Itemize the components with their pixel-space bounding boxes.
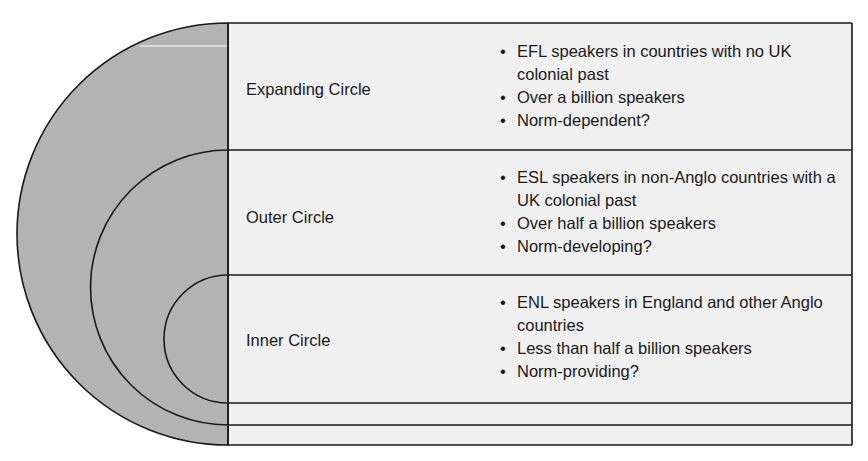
bullet-item: Norm-dependent? <box>498 109 848 132</box>
bullet-item: Less than half a billion speakers <box>498 337 848 360</box>
outer-circle-bullets: ESL speakers in non-Anglo countries with… <box>498 166 848 258</box>
inner-circle-label: Inner Circle <box>246 330 330 350</box>
bullet-item: Norm-developing? <box>498 235 848 258</box>
bullet-item: Over a billion speakers <box>498 86 848 109</box>
bullet-item: ENL speakers in England and other Anglo … <box>498 291 848 337</box>
bullet-item: ESL speakers in non-Anglo countries with… <box>498 166 848 212</box>
inner-circle-bullets: ENL speakers in England and other Anglo … <box>498 291 848 383</box>
expanding-circle-shape <box>17 23 228 445</box>
expanding-circle-bullets: EFL speakers in countries with no UK col… <box>498 40 848 132</box>
bullet-item: EFL speakers in countries with no UK col… <box>498 40 848 86</box>
outer-circle-label: Outer Circle <box>246 207 334 227</box>
expanding-circle-label: Expanding Circle <box>246 79 371 99</box>
bullet-item: Over half a billion speakers <box>498 212 848 235</box>
bullet-item: Norm-providing? <box>498 360 848 383</box>
